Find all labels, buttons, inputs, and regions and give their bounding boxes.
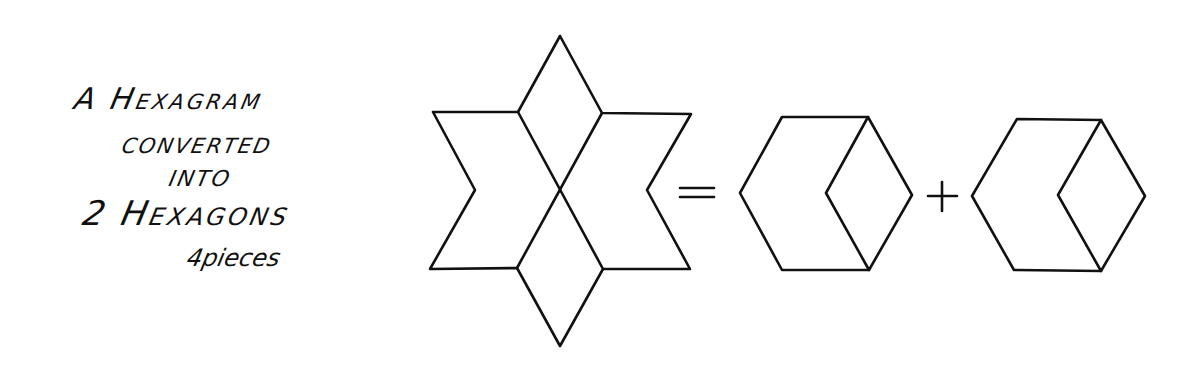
hexagon-2-figure [972, 119, 1145, 271]
hexagram-figure [430, 36, 691, 346]
diagram-canvas: A Hexagram CONVERTED INTO 2 Hexagons 4pi… [0, 0, 1198, 376]
figures-svg [0, 0, 1198, 376]
hexagon-1-inner-cut [826, 117, 869, 270]
equals-sign [680, 188, 714, 197]
plus-sign [928, 182, 957, 211]
hexagon-2-inner-cut [1058, 120, 1101, 271]
hexagon-1-figure [740, 117, 912, 270]
